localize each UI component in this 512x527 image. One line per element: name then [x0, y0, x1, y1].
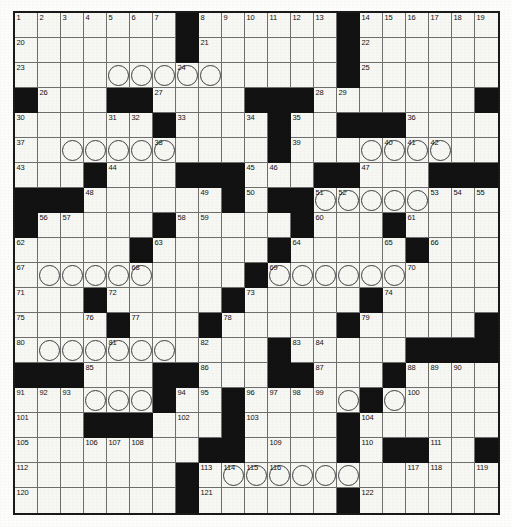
crossword-cell[interactable]: 68 — [130, 263, 153, 288]
crossword-cell[interactable]: 59 — [199, 213, 222, 238]
crossword-cell[interactable]: 12 — [291, 13, 314, 38]
crossword-cell[interactable] — [314, 238, 337, 263]
crossword-cell[interactable]: 61 — [406, 213, 429, 238]
crossword-cell[interactable]: 106 — [84, 438, 107, 463]
crossword-cell[interactable]: 115 — [245, 463, 268, 488]
crossword-cell[interactable] — [84, 463, 107, 488]
crossword-cell[interactable]: 103 — [245, 413, 268, 438]
crossword-cell[interactable] — [153, 263, 176, 288]
crossword-cell[interactable] — [429, 313, 452, 338]
crossword-cell[interactable] — [84, 63, 107, 88]
crossword-cell[interactable] — [107, 488, 130, 513]
crossword-cell[interactable]: 18 — [452, 13, 475, 38]
crossword-cell[interactable] — [383, 63, 406, 88]
crossword-cell[interactable] — [406, 313, 429, 338]
crossword-cell[interactable] — [61, 138, 84, 163]
crossword-cell[interactable]: 117 — [406, 463, 429, 488]
crossword-cell[interactable] — [245, 488, 268, 513]
crossword-cell[interactable]: 41 — [406, 138, 429, 163]
crossword-cell[interactable]: 98 — [291, 388, 314, 413]
crossword-cell[interactable]: 105 — [15, 438, 38, 463]
crossword-cell[interactable] — [38, 488, 61, 513]
crossword-cell[interactable] — [61, 338, 84, 363]
crossword-cell[interactable]: 69 — [268, 263, 291, 288]
crossword-cell[interactable] — [245, 313, 268, 338]
crossword-cell[interactable]: 42 — [429, 138, 452, 163]
crossword-cell[interactable]: 99 — [314, 388, 337, 413]
crossword-cell[interactable]: 80 — [15, 338, 38, 363]
crossword-cell[interactable]: 113 — [199, 463, 222, 488]
crossword-cell[interactable] — [452, 113, 475, 138]
crossword-cell[interactable] — [360, 338, 383, 363]
crossword-cell[interactable] — [222, 363, 245, 388]
crossword-cell[interactable]: 104 — [360, 413, 383, 438]
crossword-cell[interactable]: 112 — [15, 463, 38, 488]
crossword-cell[interactable]: 4 — [84, 13, 107, 38]
crossword-cell[interactable] — [38, 463, 61, 488]
crossword-cell[interactable] — [360, 88, 383, 113]
crossword-cell[interactable] — [314, 488, 337, 513]
crossword-cell[interactable]: 89 — [429, 363, 452, 388]
crossword-cell[interactable]: 52 — [337, 188, 360, 213]
crossword-cell[interactable] — [199, 288, 222, 313]
crossword-cell[interactable] — [383, 338, 406, 363]
crossword-cell[interactable] — [107, 388, 130, 413]
crossword-cell[interactable] — [429, 388, 452, 413]
crossword-cell[interactable] — [314, 438, 337, 463]
crossword-cell[interactable] — [337, 463, 360, 488]
crossword-cell[interactable] — [61, 288, 84, 313]
crossword-grid[interactable]: 1234567891011121314151617181920212223242… — [15, 13, 498, 513]
crossword-cell[interactable]: 14 — [360, 13, 383, 38]
crossword-cell[interactable] — [176, 138, 199, 163]
crossword-cell[interactable] — [475, 63, 498, 88]
crossword-cell[interactable] — [130, 388, 153, 413]
crossword-cell[interactable]: 34 — [245, 113, 268, 138]
crossword-cell[interactable] — [429, 488, 452, 513]
crossword-cell[interactable] — [429, 88, 452, 113]
crossword-cell[interactable] — [130, 288, 153, 313]
crossword-cell[interactable] — [61, 113, 84, 138]
crossword-cell[interactable] — [130, 338, 153, 363]
crossword-cell[interactable] — [176, 338, 199, 363]
crossword-cell[interactable]: 37 — [15, 138, 38, 163]
crossword-cell[interactable] — [475, 213, 498, 238]
crossword-cell[interactable] — [153, 163, 176, 188]
crossword-cell[interactable]: 116 — [268, 463, 291, 488]
crossword-cell[interactable] — [84, 338, 107, 363]
crossword-cell[interactable]: 71 — [15, 288, 38, 313]
crossword-cell[interactable]: 74 — [383, 288, 406, 313]
crossword-cell[interactable]: 33 — [176, 113, 199, 138]
crossword-cell[interactable]: 55 — [475, 188, 498, 213]
crossword-cell[interactable] — [429, 38, 452, 63]
crossword-cell[interactable]: 90 — [452, 363, 475, 388]
crossword-cell[interactable]: 100 — [406, 388, 429, 413]
crossword-cell[interactable]: 26 — [38, 88, 61, 113]
crossword-cell[interactable]: 92 — [38, 388, 61, 413]
crossword-cell[interactable] — [291, 313, 314, 338]
crossword-cell[interactable] — [452, 438, 475, 463]
crossword-cell[interactable] — [383, 163, 406, 188]
crossword-cell[interactable] — [360, 363, 383, 388]
crossword-cell[interactable] — [452, 63, 475, 88]
crossword-cell[interactable] — [429, 288, 452, 313]
crossword-cell[interactable] — [61, 488, 84, 513]
crossword-cell[interactable] — [475, 288, 498, 313]
crossword-cell[interactable] — [314, 113, 337, 138]
crossword-cell[interactable] — [314, 288, 337, 313]
crossword-cell[interactable] — [153, 38, 176, 63]
crossword-cell[interactable]: 84 — [314, 338, 337, 363]
crossword-cell[interactable] — [337, 388, 360, 413]
crossword-cell[interactable] — [406, 163, 429, 188]
crossword-cell[interactable] — [176, 313, 199, 338]
crossword-cell[interactable] — [222, 213, 245, 238]
crossword-cell[interactable] — [291, 38, 314, 63]
crossword-cell[interactable] — [107, 38, 130, 63]
crossword-cell[interactable]: 121 — [199, 488, 222, 513]
crossword-cell[interactable]: 82 — [199, 338, 222, 363]
crossword-cell[interactable]: 31 — [107, 113, 130, 138]
crossword-cell[interactable]: 21 — [199, 38, 222, 63]
crossword-cell[interactable] — [222, 113, 245, 138]
crossword-cell[interactable] — [337, 338, 360, 363]
crossword-cell[interactable]: 17 — [429, 13, 452, 38]
crossword-cell[interactable] — [291, 288, 314, 313]
